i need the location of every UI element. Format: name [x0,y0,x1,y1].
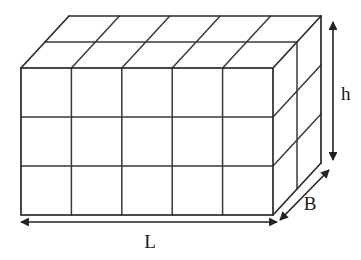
height-label: h [341,83,351,104]
length-label: L [144,231,156,252]
breadth-label: B [304,193,317,214]
cuboid-figure: L h B [0,0,361,260]
face-fills [21,16,321,215]
front-face [21,68,273,215]
cuboid-diagram-canvas: L h B [0,0,361,260]
